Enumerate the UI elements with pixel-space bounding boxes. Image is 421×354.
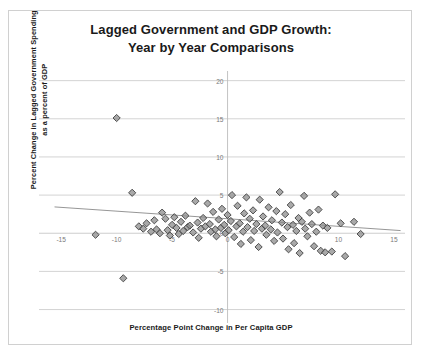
x-tick-label: -5 <box>169 236 175 243</box>
x-tick-label: 10 <box>335 236 342 243</box>
y-axis-title-line1: Percent Change in Lagged Government Spen… <box>29 10 38 189</box>
x-tick-label: 15 <box>390 236 397 243</box>
chart-figure: Lagged Government and GDP Growth: Year b… <box>8 10 412 345</box>
x-tick-label: 0 <box>226 236 230 243</box>
y-axis-title: Percent Change in Lagged Government Spen… <box>29 0 50 210</box>
x-tick-label: -10 <box>112 236 122 243</box>
y-tick-label: 5 <box>220 192 224 199</box>
x-axis-title: Percentage Point Change in Per Capita GD… <box>9 323 413 332</box>
y-tick-label: -5 <box>218 268 224 275</box>
x-tick-label: -15 <box>56 236 66 243</box>
y-tick-label: -10 <box>214 306 224 313</box>
y-tick-label: 10 <box>216 153 223 160</box>
y-tick-label: 15 <box>216 115 223 122</box>
y-axis-title-line2: as a percent of GDP <box>40 0 51 210</box>
y-tick-label: 0 <box>220 230 224 237</box>
scatter-plot-svg <box>9 11 413 346</box>
plot-area: -15-10-501015 20151050-5-10 <box>9 11 413 346</box>
data-points <box>92 114 364 281</box>
y-tick-label: 20 <box>216 77 223 84</box>
